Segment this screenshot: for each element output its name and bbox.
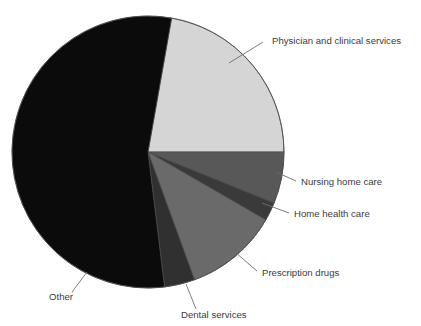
slice-label: Home health care (294, 208, 370, 219)
slice-label: Nursing home care (301, 176, 382, 187)
leader-line (72, 272, 87, 292)
pie-chart-canvas: Physician and clinical servicesNursing h… (0, 0, 421, 326)
pie-chart: Physician and clinical servicesNursing h… (0, 0, 421, 326)
pie-slice[interactable] (12, 16, 172, 288)
slice-label: Dental services (181, 309, 247, 320)
slice-label: Physician and clinical services (272, 35, 401, 46)
pie-slices-group (12, 16, 284, 288)
slice-label: Other (49, 291, 74, 302)
leader-line (186, 284, 196, 309)
slice-label: Prescription drugs (262, 267, 340, 278)
leader-line (235, 252, 257, 271)
